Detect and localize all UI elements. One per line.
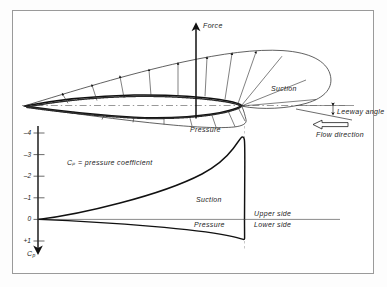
ytick-label-minus4: –4 [16,129,31,136]
chart-suction-label: Suction [196,196,222,203]
leeway-angle-label: Leeway angle [337,108,384,115]
cp-axis-label: Cp [27,250,36,258]
ytick-label-minus3: –3 [16,151,31,158]
foil-suction-label: Suction [271,85,297,92]
lower-side-label: Lower side [254,221,291,228]
diagram-canvas [0,0,387,287]
upper-side-label: Upper side [254,210,291,217]
ytick-label-plus1: +1 [16,237,31,244]
cp-definition-label: Cₚ = pressure coefficient [67,159,152,167]
chart-pressure-label: Pressure [194,221,225,228]
ytick-label-minus1: –1 [16,194,31,201]
ytick-label-zero: 0 [16,215,31,222]
ytick-label-minus2: –2 [16,172,31,179]
flow-direction-label: Flow direction [316,131,364,138]
force-label: Force [203,22,223,29]
foil-section [24,95,242,119]
pressure-distribution-figure: Force Suction Pressure Leeway angle Flow… [0,0,387,287]
flow-direction-arrow [313,120,348,129]
suction-cp-curve [39,137,245,219]
foil-pressure-label: Pressure [190,126,221,133]
cp-axis [34,126,45,250]
cp-axis-label-sub: p [32,252,35,258]
